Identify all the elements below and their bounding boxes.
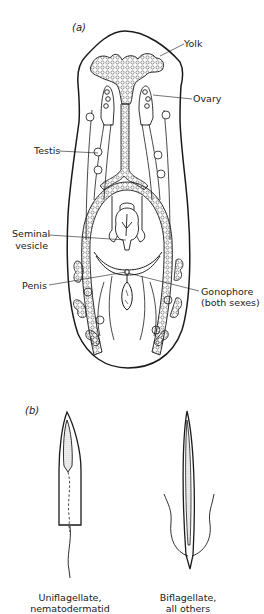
seminal-vesicle [109, 196, 145, 250]
label-gonophore-line1: Gonophore [201, 286, 253, 297]
label-ovary: Ovary [193, 93, 221, 104]
caption-uniflagellate-line2: nematodermatid [20, 603, 120, 614]
uniflagellate-sperm [59, 412, 81, 578]
figure: (a) Yolk Ovary Testis Seminal vesicle Pe… [0, 0, 264, 614]
label-penis: Penis [22, 280, 47, 291]
label-testis: Testis [34, 145, 60, 156]
caption-uniflagellate-line1: Uniflagellate, [20, 592, 120, 603]
panel-a-label: (a) [72, 22, 86, 33]
label-seminal-vesicle-line1: Seminal [12, 228, 48, 239]
label-seminal-vesicle-line2: vesicle [12, 240, 48, 251]
label-gonophore-line2: (both sexes) [201, 297, 260, 308]
label-yolk: Yolk [184, 38, 203, 49]
caption-biflagellate-line2: all others [138, 603, 238, 614]
panel-b-label: (b) [25, 405, 39, 416]
cropped-header-text [140, 0, 250, 2]
penis [94, 252, 162, 310]
biflagellate-sperm [164, 411, 214, 569]
yolk-gland [90, 54, 163, 104]
caption-biflagellate-line1: Biflagellate, [138, 592, 238, 603]
